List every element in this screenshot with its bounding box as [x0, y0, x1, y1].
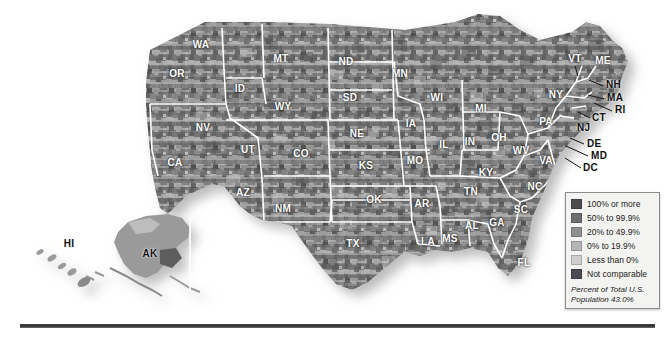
us-choropleth-map: WAORIDMTWYNVUTCAAZCONMNDSDNEKSOKTXMNIAMO… — [0, 0, 671, 310]
legend-entry: 100% or more — [571, 197, 655, 210]
legend-entry-label: 100% or more — [587, 199, 640, 209]
legend-note-line-2: Population 43.0% — [571, 295, 655, 305]
legend-swatch-icon — [571, 255, 582, 265]
legend-swatch-icon — [571, 269, 582, 279]
legend-note-line-1: Percent of Total U.S. — [571, 285, 655, 295]
legend-entry-label: 50% to 99.9% — [587, 213, 640, 223]
legend-entry-label: Less than 0% — [587, 255, 639, 265]
legend-swatch-icon — [571, 213, 582, 223]
legend-entry-label: Not comparable — [587, 269, 647, 279]
legend-swatch-icon — [571, 227, 582, 237]
legend-note: Percent of Total U.S. Population 43.0% — [571, 283, 655, 304]
map-legend: 100% or more50% to 99.9%20% to 49.9%0% t… — [565, 192, 660, 309]
legend-entry: 0% to 19.9% — [571, 239, 655, 252]
legend-entry: 20% to 49.9% — [571, 225, 655, 238]
legend-swatch-icon — [571, 199, 582, 209]
legend-entry-label: 20% to 49.9% — [587, 227, 640, 237]
legend-entry: 50% to 99.9% — [571, 211, 655, 224]
alaska-inset — [86, 214, 200, 296]
legend-entry-list: 100% or more50% to 99.9%20% to 49.9%0% t… — [571, 197, 655, 280]
legend-entry: Not comparable — [571, 267, 655, 280]
legend-entry: Less than 0% — [571, 253, 655, 266]
legend-entry-label: 0% to 19.9% — [587, 241, 635, 251]
bottom-divider-rule — [20, 324, 655, 328]
hawaii-inset — [35, 248, 92, 289]
legend-swatch-icon — [571, 241, 582, 251]
